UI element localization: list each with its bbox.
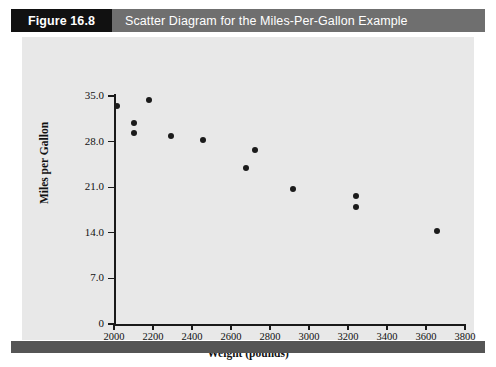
scatter-point [168,133,174,139]
y-axis-line [114,94,116,326]
y-tick-mark [108,278,114,279]
y-axis-title: Miles per Gallon [38,103,50,223]
x-tick-mark [113,325,114,330]
x-tick-mark [386,325,387,330]
figure-bottom-rule [11,341,485,353]
scatter-point [353,204,359,210]
scatter-point [434,228,440,234]
y-tick-label: 7.0 [90,271,104,283]
x-tick-mark [269,325,270,330]
figure-caption: Scatter Diagram for the Miles-Per-Gallon… [112,9,485,32]
x-tick-mark [152,325,153,330]
y-tick-label: 35.0 [85,89,104,101]
scatter-point [146,97,152,103]
x-tick-mark [230,325,231,330]
x-tick-mark [308,325,309,330]
y-tick-label: 28.0 [85,135,104,147]
y-tick-label: 21.0 [85,180,104,192]
scatter-point [200,137,206,143]
x-tick-mark [425,325,426,330]
scatter-point [252,147,258,153]
y-tick-label: 14.0 [85,226,104,238]
scatter-point [290,186,296,192]
x-tick-mark [347,325,348,330]
chart-panel: 07.014.021.028.035.0 2000220024002600280… [22,37,474,340]
y-tick-mark [108,95,114,96]
scatter-point [131,130,137,136]
y-tick-mark [108,141,114,142]
y-tick-mark [108,187,114,188]
scatter-point [353,193,359,199]
x-tick-mark [191,325,192,330]
x-axis-line [114,324,466,326]
scatter-point [131,120,137,126]
scatter-point [114,103,120,109]
scatter-point [243,165,249,171]
figure-container: Figure 16.8 Scatter Diagram for the Mile… [0,0,496,367]
figure-number-badge: Figure 16.8 [11,9,112,32]
x-tick-mark [464,325,465,330]
y-tick-label: 0 [99,317,105,329]
y-tick-mark [108,232,114,233]
figure-header: Figure 16.8 Scatter Diagram for the Mile… [11,9,485,32]
